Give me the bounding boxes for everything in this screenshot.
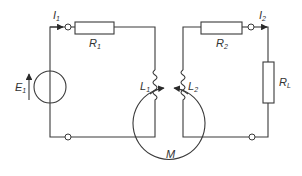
- inductor-l2: [181, 70, 185, 103]
- inductor-l1: [153, 70, 157, 103]
- circuit-diagram: I1 R1 E1 L1 L2 R2 I2 RL M: [0, 0, 302, 176]
- label-e1: E1: [15, 81, 26, 94]
- primary-terminal-top: [65, 24, 71, 30]
- resistor-r2: [201, 22, 242, 34]
- label-i1: I1: [53, 9, 60, 22]
- primary-left-top-wire: [50, 27, 65, 71]
- label-i2: I2: [259, 9, 266, 22]
- primary-top-right-wire: [114, 27, 155, 70]
- label-r1: R1: [89, 37, 101, 50]
- secondary-terminal-bottom: [249, 134, 255, 140]
- secondary-terminal-top: [248, 24, 254, 30]
- primary-terminal-bottom: [65, 134, 71, 140]
- label-r2: R2: [216, 37, 228, 50]
- secondary-right-bottom-wire: [255, 103, 268, 137]
- primary-bottom-wire: [71, 103, 155, 137]
- label-m: M: [166, 148, 176, 160]
- resistor-r1: [75, 22, 114, 34]
- primary-left-bottom-wire: [50, 103, 65, 137]
- secondary-right-top-wire: [266, 27, 268, 62]
- secondary-bottom-wire: [183, 103, 249, 137]
- resistor-rl: [263, 62, 274, 103]
- label-l1: L1: [140, 80, 150, 93]
- label-l2: L2: [188, 80, 198, 93]
- label-rl: RL: [279, 76, 291, 89]
- secondary-circuit: [181, 22, 274, 140]
- secondary-top-left-wire: [183, 27, 201, 70]
